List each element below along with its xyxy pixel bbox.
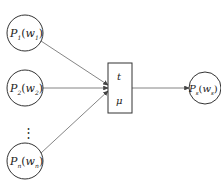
svg-text:P1(w1): P1(w1) — [9, 27, 43, 41]
aggregation-box: t μ — [108, 63, 132, 113]
input-node-1: P1(w1) — [7, 15, 43, 51]
output-node: Ps(ws) — [188, 72, 221, 104]
svg-text:Pn(wn): Pn(wn) — [9, 155, 43, 169]
input-node-2: P2(w2) — [7, 70, 43, 106]
input-node-n: Pn(wn) — [7, 143, 43, 179]
box-label-mu: μ — [116, 95, 123, 106]
edge-input-1 — [41, 41, 108, 85]
svg-text:P2(w2): P2(w2) — [9, 82, 43, 96]
ellipsis-dots: ⋮ — [22, 125, 35, 140]
aggregation-diagram: P1(w1) P2(w2) ⋮ Pn(wn) t μ Ps(ws) — [0, 0, 221, 181]
edge-input-n — [41, 91, 108, 153]
